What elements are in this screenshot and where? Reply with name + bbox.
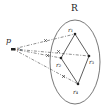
vertex-label-r3: r₃	[89, 58, 95, 65]
point-sub-label: r₀	[17, 46, 21, 52]
vertex-label-r1: r₁	[68, 26, 73, 33]
point-p	[11, 48, 15, 51]
vertex-label-r2: r₂	[56, 61, 62, 68]
polygon-edges	[61, 34, 89, 84]
diagram: R p r₀ r₁ r₂ r₃ r₄	[0, 0, 108, 109]
dashed-rays	[13, 34, 89, 84]
diagram-canvas: R p r₀ r₁ r₂ r₃ r₄	[0, 0, 108, 109]
region-label: R	[71, 3, 78, 13]
point-label: p	[6, 36, 11, 45]
vertex-label-r4: r₄	[73, 88, 79, 95]
